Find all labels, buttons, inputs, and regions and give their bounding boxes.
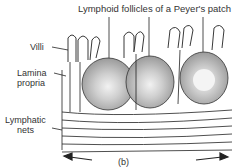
label-leaders bbox=[52, 47, 68, 130]
lymphatic-label-1: Lymphatic bbox=[5, 115, 46, 125]
villi-label: Villi bbox=[30, 42, 44, 52]
lymphatic-label-2: nets bbox=[17, 125, 34, 135]
lamina-label-1: Lamina bbox=[17, 68, 47, 78]
title-label: Lymphoid follicles of a Peyer's patch bbox=[78, 4, 231, 14]
flow-arrows bbox=[64, 153, 228, 160]
follicles bbox=[82, 52, 228, 110]
figure-caption: (b) bbox=[118, 157, 129, 167]
lamina-label-2: propria bbox=[17, 78, 45, 88]
